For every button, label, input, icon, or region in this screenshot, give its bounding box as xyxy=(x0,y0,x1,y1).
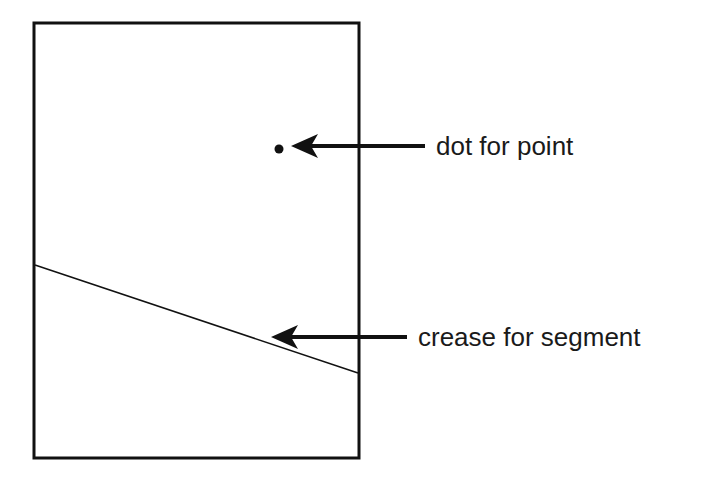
point-dot xyxy=(275,145,284,154)
crease-segment xyxy=(35,265,358,373)
paper-sheet xyxy=(34,23,359,458)
point-label: dot for point xyxy=(436,133,573,159)
diagram-svg xyxy=(0,0,715,486)
segment-arrow-icon xyxy=(271,325,407,349)
segment-label: crease for segment xyxy=(418,324,641,350)
diagram-canvas: dot for point crease for segment xyxy=(0,0,715,486)
